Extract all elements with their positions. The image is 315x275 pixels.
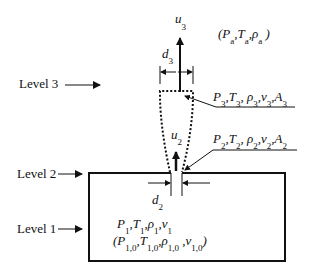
velocity-3-label: u3 bbox=[175, 11, 187, 32]
level-3-label: Level 3 bbox=[19, 76, 58, 91]
state-2-label: P2,T2, ρ2,v2,A2 bbox=[212, 131, 287, 151]
state-2-leader-line bbox=[185, 150, 297, 170]
level-2-label: Level 2 bbox=[17, 166, 56, 181]
velocity-2-label: u2 bbox=[171, 127, 182, 147]
state-3-label: P3,T3, ρ3,v3,A3 bbox=[212, 89, 287, 109]
diameter-3-label: d3 bbox=[162, 46, 174, 66]
level-1-label: Level 1 bbox=[17, 221, 56, 236]
state-1-initial-label: (P1,0,T1,0,ρ1,0 ,v1,0) bbox=[113, 233, 207, 253]
tank-jet-diagram: Level 3 Level 2 Level 1 d2 u3 d3 (Pa,Ta,… bbox=[0, 0, 315, 275]
ambient-conditions: (Pa,Ta,ρa ) bbox=[218, 26, 270, 46]
diameter-2-label: d2 bbox=[152, 192, 163, 212]
